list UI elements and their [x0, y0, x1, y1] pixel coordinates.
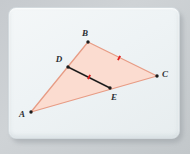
- triangle-abc: [31, 42, 157, 112]
- point-label-e: E: [110, 92, 117, 102]
- point-label-b: B: [81, 28, 88, 38]
- figure-root: A B C D E: [0, 0, 190, 154]
- point-label-c: C: [162, 69, 169, 79]
- geometry-diagram: A B C D E: [0, 0, 190, 154]
- point-label-d: D: [55, 54, 63, 64]
- point-d: [66, 65, 69, 68]
- point-label-a: A: [18, 109, 25, 119]
- point-c: [155, 74, 158, 77]
- point-a: [29, 110, 32, 113]
- point-e: [108, 86, 111, 89]
- point-b: [86, 40, 89, 43]
